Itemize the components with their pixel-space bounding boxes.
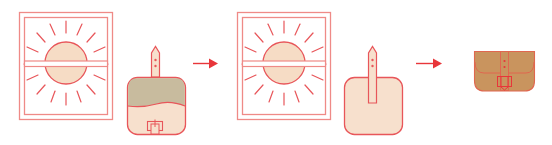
arrow-right-icon [416, 59, 442, 69]
step-1 [20, 13, 186, 135]
window-icon [238, 13, 331, 120]
diagram-canvas: Sun-tanning a leather pouch in a window:… [0, 0, 552, 145]
arrow-right-icon [193, 59, 218, 69]
pouch-tanned-icon [475, 52, 535, 92]
pouch-closed-icon [128, 47, 186, 135]
step-2 [238, 13, 403, 135]
window-icon [20, 13, 113, 120]
step-3 [475, 52, 535, 92]
pouch-open-icon [345, 47, 403, 135]
